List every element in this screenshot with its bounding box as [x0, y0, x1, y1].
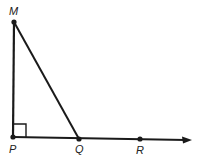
ray-pr — [13, 137, 186, 140]
geometry-diagram: M P Q R — [0, 0, 219, 163]
label-q: Q — [75, 143, 84, 155]
point-m — [11, 19, 16, 24]
label-p: P — [9, 143, 17, 155]
arrowhead-icon — [182, 137, 192, 144]
point-r — [137, 136, 142, 141]
right-angle-marker — [13, 124, 26, 137]
segment-mq — [14, 22, 79, 139]
point-q — [76, 136, 81, 141]
point-p — [10, 134, 15, 139]
segment-mp — [13, 22, 14, 137]
label-m: M — [9, 5, 19, 17]
label-r: R — [136, 144, 144, 156]
